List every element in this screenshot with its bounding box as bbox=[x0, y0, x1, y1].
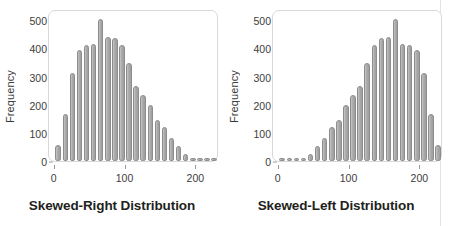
histogram-bar bbox=[322, 138, 327, 161]
figure-root: Frequency 0100200300400500 0100200 Skewe… bbox=[0, 0, 449, 226]
histogram-bar bbox=[407, 45, 412, 161]
histogram-bar bbox=[350, 95, 355, 161]
histogram-bar bbox=[98, 19, 103, 161]
x-tick-mark bbox=[419, 165, 420, 169]
x-tick-label: 0 bbox=[275, 172, 281, 184]
x-tick-label: 100 bbox=[340, 172, 358, 184]
histogram-bar bbox=[343, 105, 348, 161]
histogram-bar bbox=[435, 145, 440, 161]
histogram-bar bbox=[63, 114, 68, 161]
histogram-bar bbox=[91, 44, 96, 161]
chart-panel-skewed-right: Frequency 0100200300400500 0100200 Skewe… bbox=[0, 0, 224, 226]
histogram-bar bbox=[55, 145, 60, 161]
histogram-bar bbox=[315, 146, 320, 161]
plot-frame-left bbox=[48, 10, 218, 162]
x-tick-label: 200 bbox=[187, 172, 205, 184]
chart-panel-skewed-left: Frequency 0100200300400500 0100200 Skewe… bbox=[224, 0, 448, 226]
histogram-bar bbox=[379, 38, 384, 161]
histogram-bar bbox=[155, 120, 160, 161]
histogram-bar bbox=[336, 120, 341, 161]
histogram-bar bbox=[301, 158, 306, 162]
x-tick-mark bbox=[125, 165, 126, 169]
histogram-bar bbox=[190, 158, 195, 162]
histogram-bar bbox=[70, 73, 75, 161]
histogram-bar bbox=[169, 138, 174, 161]
histogram-bar bbox=[400, 44, 405, 161]
histogram-bar bbox=[133, 86, 138, 161]
histogram-bar bbox=[148, 105, 153, 161]
histogram-bar bbox=[197, 158, 202, 162]
histogram-bar bbox=[162, 127, 167, 161]
histogram-bar bbox=[204, 158, 209, 162]
histogram-bar bbox=[211, 158, 216, 162]
plot-area-right bbox=[273, 11, 441, 161]
histogram-bar bbox=[329, 127, 334, 161]
x-tick-label: 0 bbox=[51, 172, 57, 184]
histogram-bar bbox=[421, 73, 426, 161]
histogram-bar bbox=[386, 37, 391, 161]
x-tick-mark bbox=[349, 165, 350, 169]
histogram-bar bbox=[357, 86, 362, 161]
chart-caption-right: Skewed-Left Distribution bbox=[224, 198, 448, 213]
histogram-bar bbox=[119, 45, 124, 161]
histogram-bar bbox=[414, 50, 419, 161]
x-tick-mark bbox=[278, 165, 279, 169]
histogram-bar bbox=[279, 158, 284, 162]
x-tick-mark bbox=[54, 165, 55, 169]
histogram-bar bbox=[308, 154, 313, 161]
histogram-bar bbox=[287, 158, 292, 162]
histogram-bar bbox=[176, 146, 181, 161]
histogram-bar bbox=[294, 158, 299, 162]
histogram-bar bbox=[183, 154, 188, 161]
x-tick-mark bbox=[195, 165, 196, 169]
histogram-bar bbox=[105, 37, 110, 161]
x-tick-label: 200 bbox=[411, 172, 429, 184]
histogram-bar bbox=[112, 38, 117, 161]
plot-area-left bbox=[49, 11, 217, 161]
plot-frame-right bbox=[272, 10, 442, 162]
histogram-bar bbox=[372, 45, 377, 161]
histogram-bar bbox=[77, 50, 82, 161]
histogram-bar bbox=[84, 45, 89, 161]
chart-caption-left: Skewed-Right Distribution bbox=[0, 198, 224, 213]
histogram-bar bbox=[140, 95, 145, 161]
histogram-bar bbox=[428, 114, 433, 161]
histogram-bar bbox=[393, 19, 398, 161]
x-tick-label: 100 bbox=[116, 172, 134, 184]
histogram-bar bbox=[126, 63, 131, 161]
histogram-bar bbox=[364, 63, 369, 161]
